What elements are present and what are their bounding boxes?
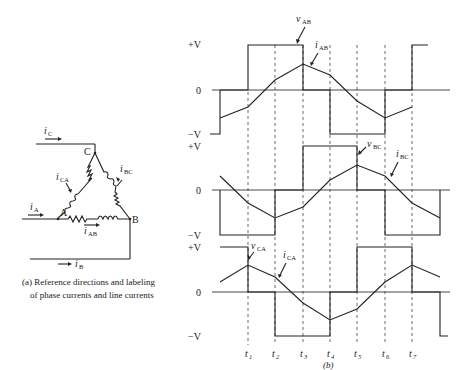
svg-text:6: 6 — [386, 353, 390, 360]
caption-b: (b) — [323, 360, 334, 370]
svg-text:v: v — [367, 138, 372, 149]
svg-text:v: v — [296, 13, 301, 24]
svg-text:BC: BC — [373, 143, 382, 150]
level-plus-1: +V — [188, 39, 202, 50]
svg-text:i: i — [75, 258, 78, 269]
svg-text:t: t — [409, 348, 412, 359]
svg-text:CA: CA — [287, 254, 296, 261]
svg-text:4: 4 — [331, 353, 335, 360]
svg-text:i: i — [44, 125, 47, 136]
level-minus-1: −V — [188, 129, 202, 140]
svg-text:i: i — [315, 39, 318, 50]
svg-text:i: i — [396, 148, 399, 159]
svg-text:i: i — [283, 249, 286, 260]
svg-text:t: t — [354, 348, 357, 359]
svg-text:1: 1 — [249, 353, 252, 360]
svg-text:AB: AB — [88, 230, 98, 237]
svg-text:t: t — [382, 348, 385, 359]
level-zero-3: 0 — [196, 287, 201, 298]
level-zero-2: 0 — [196, 185, 201, 196]
caption-a-line2: of phase currents and line currents — [30, 290, 154, 300]
svg-text:t: t — [245, 348, 248, 359]
svg-text:2: 2 — [276, 353, 280, 360]
delta-load-figure: iC C iA A B iB iCA iBC iAB (a) Reference… — [0, 0, 468, 370]
figure-canvas: iC C iA A B iB iCA iBC iAB (a) Reference… — [0, 0, 468, 370]
svg-text:7: 7 — [413, 353, 417, 360]
delta-circuit: iC C iA A B iB iCA iBC iAB (a) Reference… — [22, 125, 155, 300]
waveforms: +V 0 −V vAB iAB +V 0 −V vBC iBC +V 0 −V … — [188, 13, 450, 370]
svg-text:BC: BC — [124, 168, 133, 175]
svg-text:B: B — [132, 214, 139, 225]
svg-text:CA: CA — [257, 245, 266, 252]
svg-text:AB: AB — [319, 44, 329, 51]
svg-text:AB: AB — [302, 18, 312, 25]
svg-text:t: t — [327, 348, 330, 359]
svg-text:i: i — [30, 201, 33, 212]
svg-text:i: i — [56, 171, 59, 182]
svg-text:v: v — [251, 240, 256, 251]
svg-text:C: C — [48, 130, 52, 137]
level-zero-1: 0 — [196, 85, 201, 96]
svg-text:t: t — [300, 348, 303, 359]
svg-text:i: i — [84, 225, 87, 236]
level-plus-3: +V — [188, 242, 202, 253]
svg-text:5: 5 — [358, 353, 362, 360]
svg-text:t: t — [272, 348, 275, 359]
svg-text:A: A — [34, 206, 39, 213]
svg-text:C: C — [84, 146, 91, 157]
svg-text:A: A — [60, 207, 68, 218]
level-plus-2: +V — [188, 141, 202, 152]
svg-text:3: 3 — [303, 353, 308, 360]
level-minus-3: −V — [188, 331, 202, 342]
svg-text:B: B — [79, 263, 84, 270]
svg-text:CA: CA — [60, 176, 69, 183]
level-minus-2: −V — [188, 230, 202, 241]
svg-text:i: i — [120, 163, 123, 174]
svg-text:BC: BC — [400, 153, 409, 160]
caption-a-line1: (a) Reference directions and labeling — [22, 277, 155, 287]
